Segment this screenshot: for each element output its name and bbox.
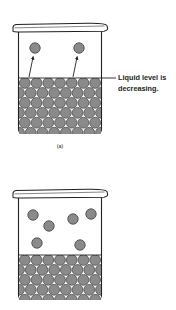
liquid-molecule xyxy=(19,255,30,266)
liquid-molecule xyxy=(31,78,42,89)
liquid-molecule xyxy=(19,78,30,89)
liquid-molecule xyxy=(90,274,101,285)
liquid-molecule xyxy=(72,88,83,99)
liquid-molecule xyxy=(25,265,36,276)
liquid-molecule xyxy=(84,265,95,276)
annotation-line-2: decreasing. xyxy=(118,84,159,93)
liquid-molecule xyxy=(14,127,25,138)
liquid-molecule xyxy=(43,274,54,285)
liquid-molecule xyxy=(60,284,71,295)
liquid-molecule xyxy=(66,294,77,305)
liquid-molecule xyxy=(84,107,95,118)
liquid-molecule xyxy=(60,88,71,99)
liquid-molecule xyxy=(66,97,77,108)
liquid-molecule xyxy=(25,88,36,99)
liquid-molecule xyxy=(90,78,101,89)
liquid-molecule xyxy=(43,97,54,108)
liquid-molecule xyxy=(14,284,25,295)
liquid-molecule xyxy=(55,78,66,89)
liquid-molecule xyxy=(96,284,107,295)
liquid-molecule xyxy=(37,88,48,99)
liquid-molecule xyxy=(84,127,95,138)
vapor-molecule xyxy=(44,221,54,231)
liquid-molecule xyxy=(66,255,77,266)
liquid-molecule xyxy=(96,265,107,276)
liquid-molecule xyxy=(90,117,101,128)
liquid-molecule xyxy=(14,265,25,276)
liquid-molecule xyxy=(90,255,101,266)
liquid-molecule xyxy=(55,117,66,128)
liquid-molecule xyxy=(84,284,95,295)
liquid-molecule xyxy=(66,117,77,128)
liquid-molecule xyxy=(31,294,42,305)
vapor-molecule xyxy=(30,43,40,53)
vapor-molecule xyxy=(68,214,78,224)
annotation-line-1: Liquid level is xyxy=(118,73,166,82)
liquid-molecule xyxy=(43,117,54,128)
liquid-molecule xyxy=(37,107,48,118)
liquid-molecule xyxy=(14,107,25,118)
liquid-molecule xyxy=(72,284,83,295)
liquid-molecule xyxy=(49,284,60,295)
liquid-molecule xyxy=(60,107,71,118)
liquid-molecule xyxy=(78,117,89,128)
liquid-molecule xyxy=(19,294,30,305)
liquid-molecule xyxy=(60,265,71,276)
liquid-molecule xyxy=(49,107,60,118)
liquid-molecule xyxy=(90,294,101,305)
liquid-molecule xyxy=(55,255,66,266)
liquid-molecule xyxy=(37,265,48,276)
vapor-molecule xyxy=(32,238,42,248)
liquid-molecule xyxy=(31,117,42,128)
liquid-molecule xyxy=(66,78,77,89)
vapor-molecule xyxy=(86,209,96,219)
liquid-molecule xyxy=(55,97,66,108)
liquid-molecule xyxy=(31,97,42,108)
liquid-molecule xyxy=(31,274,42,285)
liquid-molecule xyxy=(25,107,36,118)
liquid-molecule xyxy=(96,88,107,99)
liquid-molecule xyxy=(78,274,89,285)
liquid-molecule xyxy=(19,117,30,128)
diagram-canvas: Liquid level is decreasing. (a) xyxy=(0,0,176,310)
liquid-molecule xyxy=(19,274,30,285)
liquid-molecule xyxy=(25,284,36,295)
liquid-molecule xyxy=(90,97,101,108)
liquid-molecule xyxy=(78,78,89,89)
vapor-molecule xyxy=(75,240,85,250)
liquid-molecule xyxy=(31,255,42,266)
liquid-molecule xyxy=(43,255,54,266)
liquid-molecule xyxy=(96,107,107,118)
panel-b xyxy=(13,189,108,305)
liquid-molecule xyxy=(37,284,48,295)
liquid-molecule xyxy=(78,255,89,266)
vapor-molecule xyxy=(28,210,38,220)
liquid-molecule xyxy=(43,78,54,89)
liquid-molecule xyxy=(55,274,66,285)
liquid-molecule xyxy=(72,265,83,276)
liquid-molecule xyxy=(66,274,77,285)
vapor-molecule xyxy=(74,43,84,53)
liquid-molecule xyxy=(14,88,25,99)
liquid-molecule xyxy=(49,265,60,276)
liquid-molecule xyxy=(19,97,30,108)
liquid-molecules-b xyxy=(14,255,107,306)
panel-caption-a: (a) xyxy=(57,143,64,149)
liquid-molecule xyxy=(55,294,66,305)
liquid-molecule xyxy=(84,88,95,99)
liquid-molecule xyxy=(43,294,54,305)
liquid-molecule xyxy=(78,97,89,108)
liquid-molecule xyxy=(49,127,60,138)
liquid-molecule xyxy=(78,294,89,305)
liquid-molecule xyxy=(96,127,107,138)
liquid-molecule xyxy=(37,127,48,138)
liquid-molecule xyxy=(49,88,60,99)
evaporation-figure: Liquid level is decreasing. (a) xyxy=(0,0,176,310)
liquid-molecule xyxy=(25,127,36,138)
liquid-molecule xyxy=(72,107,83,118)
liquid-molecule xyxy=(60,127,71,138)
panel-a: Liquid level is decreasing. (a) xyxy=(13,23,166,149)
liquid-molecule xyxy=(72,127,83,138)
liquid-molecules-a xyxy=(14,78,107,138)
